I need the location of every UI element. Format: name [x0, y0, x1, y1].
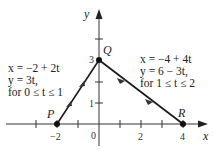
x-tick-label-neg2: −2 [50, 131, 61, 142]
point-label-r: R [177, 106, 186, 120]
direction-arrow-icon [79, 81, 85, 87]
x-tick-label-0: 0 [91, 130, 96, 141]
parametric-path-diagram: y x −2 0 2 4 1 3 P Q R x = −2 + 2t y = 3… [0, 0, 214, 151]
eq-right-x: x = −4 + 4t [140, 53, 192, 65]
y-tick-label-3: 3 [89, 54, 94, 65]
point-label-p: P [46, 107, 55, 121]
equations-right: x = −4 + 4t y = 6 − 3t, for 1 ≤ t ≤ 2 [140, 53, 195, 89]
point-r [180, 121, 186, 127]
point-p [54, 121, 60, 127]
x-tick-label-2: 2 [138, 131, 143, 142]
point-q [96, 57, 102, 63]
eq-right-range: for 1 ≤ t ≤ 2 [140, 77, 195, 89]
point-label-q: Q [103, 43, 112, 57]
equations-left: x = −2 + 2t y = 3t, for 0 ≤ t ≤ 1 [8, 62, 63, 98]
eq-left-x: x = −2 + 2t [8, 62, 60, 74]
y-axis-arrow-icon [96, 9, 103, 19]
y-axis-label: y [83, 7, 90, 21]
eq-left-range: for 0 ≤ t ≤ 1 [8, 86, 63, 98]
y-tick-label-1: 1 [89, 98, 94, 109]
x-axis-label: x [202, 129, 209, 143]
x-axis-arrow-icon [198, 121, 208, 128]
segment-p-q [57, 60, 99, 124]
direction-arrow-icon [66, 101, 72, 107]
x-tick-label-4: 4 [180, 131, 185, 142]
